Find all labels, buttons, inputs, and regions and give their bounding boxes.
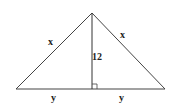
- left-side-line: [16, 13, 92, 89]
- right-side-line: [92, 13, 165, 89]
- right-base-label: y: [119, 93, 124, 103]
- right-side-label: x: [120, 30, 125, 40]
- left-side-label: x: [48, 37, 53, 47]
- right-angle-marker: [92, 84, 97, 89]
- altitude-label: 12: [92, 52, 102, 62]
- left-base-label: y: [51, 93, 56, 103]
- triangle-diagram: x x 12 y y: [0, 0, 177, 108]
- triangle-figure: [0, 0, 177, 108]
